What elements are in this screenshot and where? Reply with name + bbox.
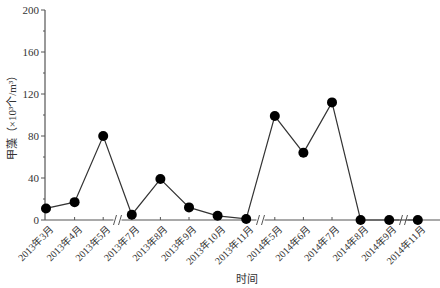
y-tick-label: 40: [28, 172, 40, 184]
data-point-marker: [184, 202, 194, 212]
data-point-marker: [241, 214, 251, 224]
data-point-marker: [356, 215, 366, 225]
data-point-marker: [70, 197, 80, 207]
axis-break-mark: [257, 215, 265, 225]
y-tick-label: 160: [23, 46, 40, 58]
y-tick-label: 200: [23, 4, 40, 16]
data-point-marker: [327, 97, 337, 107]
data-point-marker: [270, 111, 280, 121]
y-tick-label: 120: [23, 88, 40, 100]
x-axis: 2013年3月2013年4月2013年5月2013年7月2013年8月2013年…: [15, 215, 440, 267]
y-tick-label: 0: [34, 214, 40, 226]
y-axis-title: 甲藻（×10³个/m³）: [6, 70, 18, 160]
data-point-marker: [298, 148, 308, 158]
data-point-marker: [413, 215, 423, 225]
data-point-marker: [127, 210, 137, 220]
data-point-marker: [213, 211, 223, 221]
series-line: [46, 102, 418, 220]
y-tick-label: 80: [28, 130, 40, 142]
axis-break-mark: [114, 215, 122, 225]
data-point-marker: [384, 215, 394, 225]
line-chart: 04080120160200 2013年3月2013年4月2013年5月2013…: [0, 0, 440, 288]
y-axis: 04080120160200: [23, 4, 46, 226]
data-series: [41, 97, 423, 225]
data-point-marker: [98, 131, 108, 141]
data-point-marker: [41, 203, 51, 213]
x-axis-title: 时间: [236, 273, 258, 285]
data-point-marker: [155, 174, 165, 184]
